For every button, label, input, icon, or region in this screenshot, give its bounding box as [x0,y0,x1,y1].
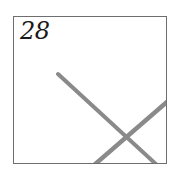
cross-drawing [0,0,176,173]
drawn-stroke-2 [93,101,168,166]
